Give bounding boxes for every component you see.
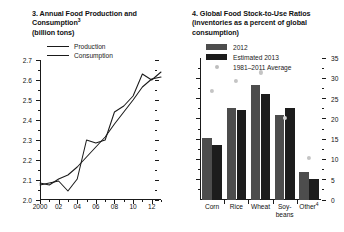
y-tick-mirror bbox=[196, 159, 200, 160]
bar-2013-soybeans bbox=[285, 108, 295, 200]
y-tick-minor bbox=[38, 60, 40, 61]
y-tick-minor bbox=[38, 120, 40, 121]
bar-2013-wheat bbox=[261, 94, 271, 200]
x-tick-label: 04 bbox=[74, 203, 81, 210]
legend-item-consumption: Consumption bbox=[47, 51, 113, 60]
y-tick-label: 2.5 bbox=[23, 97, 32, 104]
y-tick-minor-mirror bbox=[155, 100, 157, 101]
y-tick-minor bbox=[38, 180, 40, 181]
y-tick-major-mirror bbox=[155, 200, 159, 201]
x-tick-minor bbox=[124, 200, 125, 202]
y-tick-mirror bbox=[198, 108, 200, 109]
chart-4-y-axis-labels: 05101520253035 bbox=[324, 58, 344, 200]
y-tick-minor bbox=[38, 170, 40, 171]
bar-2012-soybeans bbox=[275, 115, 285, 200]
chart-3-lines bbox=[40, 60, 161, 200]
chart-4-title-line-3: consumption) bbox=[192, 28, 344, 37]
y-tick-minor bbox=[38, 150, 40, 151]
chart-3-y-axis-line bbox=[40, 60, 41, 200]
legend-label-2012: 2012 bbox=[233, 44, 248, 51]
bar-2013-corn bbox=[212, 145, 222, 200]
y-tick-minor-mirror bbox=[155, 80, 157, 81]
x-tick-minor bbox=[49, 200, 50, 202]
chart-3-legend: Production Consumption bbox=[47, 42, 113, 60]
panel-chart-3: 3. Annual Food Production and Consumptio… bbox=[0, 0, 172, 232]
legend-item-production: Production bbox=[47, 42, 113, 51]
category-footnote: 4 bbox=[316, 201, 319, 207]
x-category-label: Other4 bbox=[299, 203, 318, 211]
chart-4-title-line-1: 4. Global Food Stock-to-Use Ratios bbox=[192, 9, 344, 18]
y-tick-label: 2.7 bbox=[23, 57, 32, 64]
x-category-label: Corn bbox=[205, 203, 219, 211]
chart-4-title: 4. Global Food Stock-to-Use Ratios (inve… bbox=[192, 9, 344, 37]
y-tick-label: 20 bbox=[331, 115, 338, 122]
chart-3-title-line-1: 3. Annual Food Production and bbox=[32, 9, 172, 18]
y-tick-mirror bbox=[198, 129, 200, 130]
x-tick-minor bbox=[142, 200, 143, 202]
x-category-label: Wheat bbox=[251, 203, 270, 211]
figure-container: 3. Annual Food Production and Consumptio… bbox=[0, 0, 344, 232]
bar-2013-other bbox=[309, 179, 319, 201]
chart-3-subtitle: (billion tons) bbox=[32, 28, 172, 37]
bar-2013-rice bbox=[237, 110, 247, 200]
y-tick-minor-mirror bbox=[155, 130, 157, 131]
x-tick-label: 10 bbox=[129, 203, 136, 210]
legend-label-consumption: Consumption bbox=[74, 52, 113, 59]
y-tick-minor-mirror bbox=[155, 150, 157, 151]
y-tick-minor-mirror bbox=[155, 60, 157, 61]
y-tick-label: 2.0 bbox=[23, 197, 32, 204]
y-tick-minor-mirror bbox=[155, 70, 157, 71]
x-tick-label: 08 bbox=[111, 203, 118, 210]
y-tick-mirror bbox=[198, 149, 200, 150]
y-tick-minor-mirror bbox=[155, 140, 157, 141]
y-tick-minor bbox=[38, 190, 40, 191]
x-category-tick bbox=[248, 200, 249, 204]
y-tick-minor-mirror bbox=[155, 180, 157, 181]
y-tick-label: 5 bbox=[331, 176, 335, 183]
x-tick-minor bbox=[161, 200, 162, 202]
y-tick-minor-mirror bbox=[155, 90, 157, 91]
y-tick-label: 0 bbox=[331, 197, 335, 204]
x-tick-label: 2000 bbox=[33, 203, 48, 210]
average-dot-wheat bbox=[258, 71, 262, 75]
y-tick-mirror bbox=[198, 189, 200, 190]
chart-3-right-tick-marks bbox=[155, 60, 163, 200]
y-tick-minor-mirror bbox=[155, 190, 157, 191]
chart-4-plot-area bbox=[200, 58, 321, 200]
chart-4-title-line-2: (inventories as a percent of global bbox=[192, 18, 344, 27]
chart-3-title-line-2: Consumption3 bbox=[32, 18, 172, 27]
y-tick-minor bbox=[38, 70, 40, 71]
average-dot-other bbox=[307, 156, 311, 160]
x-category-tick bbox=[273, 200, 274, 204]
y-tick-label: 2.3 bbox=[23, 137, 32, 144]
y-tick-mirror bbox=[196, 78, 200, 79]
y-tick-label: 25 bbox=[331, 95, 338, 102]
y-tick-minor-mirror bbox=[155, 170, 157, 171]
y-tick-mirror bbox=[196, 118, 200, 119]
y-tick-minor-mirror bbox=[155, 120, 157, 121]
line-swatch-icon bbox=[47, 46, 69, 47]
y-tick-mirror bbox=[198, 169, 200, 170]
x-category-tick bbox=[297, 200, 298, 204]
y-tick-minor bbox=[38, 90, 40, 91]
bar-2012-wheat bbox=[251, 85, 261, 200]
chart-3-title: 3. Annual Food Production and Consumptio… bbox=[32, 9, 172, 37]
y-tick-mirror bbox=[196, 98, 200, 99]
x-tick-minor bbox=[68, 200, 69, 202]
chart-3-title-footnote: 3 bbox=[78, 17, 81, 23]
chart-3-y-axis-labels: 2.02.12.22.32.42.52.62.7 bbox=[8, 60, 32, 200]
bar-swatch-icon bbox=[206, 44, 227, 50]
y-tick-label: 2.6 bbox=[23, 77, 32, 84]
y-tick-label: 2.4 bbox=[23, 117, 32, 124]
series-line-production bbox=[40, 72, 161, 191]
x-category-label: Soy-beans bbox=[276, 203, 294, 219]
y-tick-mirror bbox=[196, 139, 200, 140]
y-tick-minor bbox=[38, 100, 40, 101]
x-category-tick bbox=[224, 200, 225, 204]
y-tick-minor bbox=[38, 160, 40, 161]
y-tick-mirror bbox=[198, 88, 200, 89]
y-tick-mirror bbox=[198, 68, 200, 69]
bar-2012-other bbox=[299, 172, 309, 200]
x-tick-label: 02 bbox=[55, 203, 62, 210]
x-tick-label: 06 bbox=[92, 203, 99, 210]
